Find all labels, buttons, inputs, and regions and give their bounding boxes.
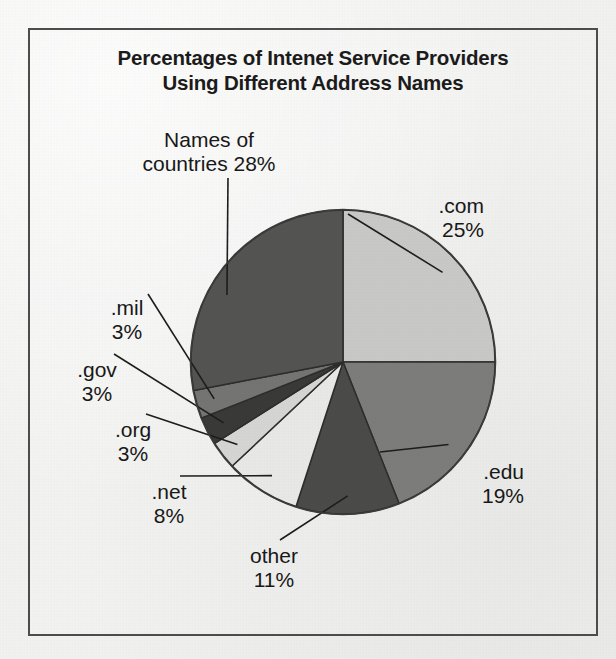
pie-label-mil: .mil 3% <box>72 296 182 344</box>
pie-slice-names-of-countries <box>191 210 343 390</box>
leader-line-names-of-countries <box>227 178 228 295</box>
pie-label-org: .org 3% <box>78 418 188 466</box>
pie-label-names-of-countries: Names of countries 28% <box>100 128 318 176</box>
pie-label-other: other 11% <box>204 544 344 592</box>
pie-label-gov: .gov 3% <box>42 358 152 406</box>
pie-label-edu: .edu 19% <box>374 460 524 508</box>
scanned-page: Percentages of Intenet Service Providers… <box>0 0 616 659</box>
pie-label-com: .com 25% <box>324 194 484 242</box>
pie-label-net: .net 8% <box>114 480 224 528</box>
pie-chart-stage: Names of countries 28% .com 25% .edu 19%… <box>28 28 598 636</box>
